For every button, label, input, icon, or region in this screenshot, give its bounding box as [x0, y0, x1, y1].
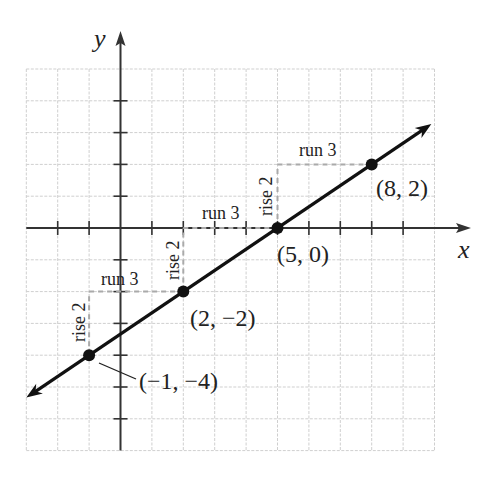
line-arrow-start-icon [26, 384, 43, 398]
run-label-2: run 3 [202, 203, 240, 223]
rise-label-3: rise 2 [256, 177, 276, 217]
x-axis-label: x [457, 235, 470, 264]
axes [26, 31, 471, 451]
rise-label-1: rise 2 [69, 303, 89, 343]
point-label-5-0: (5, 0) [277, 241, 329, 267]
point-label-2-neg2: (2, −2) [190, 305, 256, 331]
data-point [366, 158, 378, 170]
coordinate-plane: y x (8, 2) (5, 0) (2, −2) (−1, −4) run 3… [0, 0, 483, 480]
leader-line [99, 363, 136, 379]
data-point [272, 222, 284, 234]
y-axis-label: y [91, 24, 106, 53]
line-arrow-end-icon [415, 124, 432, 138]
point-label-8-2: (8, 2) [376, 175, 428, 201]
data-point [177, 286, 189, 298]
run-label-1: run 3 [101, 269, 139, 289]
point-label-neg1-neg4: (−1, −4) [139, 368, 218, 394]
run-label-3: run 3 [299, 140, 337, 160]
data-point [83, 349, 95, 361]
rise-label-2: rise 2 [163, 241, 183, 281]
